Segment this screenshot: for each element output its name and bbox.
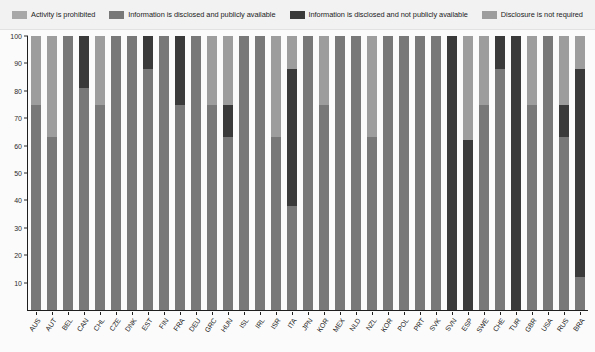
bar-slot[interactable] <box>332 36 348 310</box>
bar-slot[interactable] <box>556 36 572 310</box>
bar-segment-disclosed-public[interactable] <box>143 69 153 310</box>
stacked-bar[interactable] <box>223 36 233 310</box>
bar-segment-disclosed-private[interactable] <box>143 36 153 69</box>
bar-slot[interactable] <box>444 36 460 310</box>
bar-slot[interactable] <box>284 36 300 310</box>
bar-slot[interactable] <box>28 36 44 310</box>
bar-slot[interactable] <box>540 36 556 310</box>
bar-slot[interactable] <box>204 36 220 310</box>
bar-segment-disclosed-public[interactable] <box>207 105 217 311</box>
bar-segment-not-required[interactable] <box>319 36 329 105</box>
bar-segment-disclosed-public[interactable] <box>367 137 377 310</box>
stacked-bar[interactable] <box>335 36 345 310</box>
bar-segment-disclosed-public[interactable] <box>63 36 73 310</box>
stacked-bar[interactable] <box>175 36 185 310</box>
bar-segment-disclosed-private[interactable] <box>447 36 457 310</box>
bar-slot[interactable] <box>76 36 92 310</box>
bar-segment-disclosed-public[interactable] <box>335 36 345 310</box>
bar-slot[interactable] <box>300 36 316 310</box>
stacked-bar[interactable] <box>527 36 537 310</box>
stacked-bar[interactable] <box>495 36 505 310</box>
stacked-bar[interactable] <box>543 36 553 310</box>
bar-segment-disclosed-private[interactable] <box>79 36 89 88</box>
stacked-bar[interactable] <box>63 36 73 310</box>
bar-segment-disclosed-public[interactable] <box>111 36 121 310</box>
stacked-bar[interactable] <box>255 36 265 310</box>
stacked-bar[interactable] <box>79 36 89 310</box>
bar-segment-disclosed-public[interactable] <box>223 137 233 310</box>
stacked-bar[interactable] <box>351 36 361 310</box>
stacked-bar[interactable] <box>303 36 313 310</box>
bar-segment-disclosed-private[interactable] <box>511 36 521 310</box>
stacked-bar[interactable] <box>111 36 121 310</box>
bar-segment-disclosed-private[interactable] <box>463 140 473 310</box>
stacked-bar[interactable] <box>415 36 425 310</box>
bar-slot[interactable] <box>396 36 412 310</box>
bar-segment-disclosed-private[interactable] <box>175 36 185 105</box>
stacked-bar[interactable] <box>575 36 585 310</box>
bar-segment-not-required[interactable] <box>47 36 57 137</box>
bar-slot[interactable] <box>380 36 396 310</box>
stacked-bar[interactable] <box>271 36 281 310</box>
bar-slot[interactable] <box>524 36 540 310</box>
bar-segment-disclosed-public[interactable] <box>127 36 137 310</box>
bar-segment-disclosed-public[interactable] <box>175 105 185 311</box>
bar-segment-disclosed-public[interactable] <box>191 36 201 310</box>
bar-segment-not-required[interactable] <box>223 36 233 105</box>
bar-segment-disclosed-public[interactable] <box>95 105 105 311</box>
bar-segment-not-required[interactable] <box>95 36 105 105</box>
bar-slot[interactable] <box>572 36 588 310</box>
bar-segment-disclosed-private[interactable] <box>287 69 297 206</box>
stacked-bar[interactable] <box>559 36 569 310</box>
stacked-bar[interactable] <box>319 36 329 310</box>
stacked-bar[interactable] <box>207 36 217 310</box>
stacked-bar[interactable] <box>143 36 153 310</box>
bar-slot[interactable] <box>44 36 60 310</box>
bar-segment-not-required[interactable] <box>271 36 281 137</box>
bar-segment-disclosed-public[interactable] <box>495 69 505 310</box>
bar-segment-disclosed-private[interactable] <box>495 36 505 69</box>
stacked-bar[interactable] <box>31 36 41 310</box>
stacked-bar[interactable] <box>95 36 105 310</box>
bar-segment-disclosed-public[interactable] <box>159 36 169 310</box>
stacked-bar[interactable] <box>479 36 489 310</box>
bar-segment-not-required[interactable] <box>287 36 297 69</box>
stacked-bar[interactable] <box>239 36 249 310</box>
bar-slot[interactable] <box>252 36 268 310</box>
bar-segment-disclosed-public[interactable] <box>287 206 297 310</box>
bar-slot[interactable] <box>172 36 188 310</box>
bar-segment-disclosed-public[interactable] <box>559 137 569 310</box>
bar-segment-not-required[interactable] <box>31 36 41 105</box>
bar-segment-disclosed-public[interactable] <box>351 36 361 310</box>
bar-slot[interactable] <box>268 36 284 310</box>
bar-segment-disclosed-public[interactable] <box>31 105 41 311</box>
bar-segment-disclosed-private[interactable] <box>575 69 585 277</box>
stacked-bar[interactable] <box>367 36 377 310</box>
bar-segment-not-required[interactable] <box>559 36 569 105</box>
stacked-bar[interactable] <box>463 36 473 310</box>
stacked-bar[interactable] <box>287 36 297 310</box>
bar-segment-disclosed-public[interactable] <box>255 36 265 310</box>
bar-slot[interactable] <box>316 36 332 310</box>
bar-segment-disclosed-public[interactable] <box>527 105 537 311</box>
bar-segment-disclosed-public[interactable] <box>319 105 329 311</box>
bar-slot[interactable] <box>412 36 428 310</box>
stacked-bar[interactable] <box>191 36 201 310</box>
bar-slot[interactable] <box>236 36 252 310</box>
bar-slot[interactable] <box>92 36 108 310</box>
bar-slot[interactable] <box>108 36 124 310</box>
bar-segment-disclosed-private[interactable] <box>559 105 569 138</box>
bar-segment-not-required[interactable] <box>463 36 473 140</box>
bar-slot[interactable] <box>220 36 236 310</box>
bar-segment-disclosed-public[interactable] <box>399 36 409 310</box>
stacked-bar[interactable] <box>47 36 57 310</box>
bar-segment-not-required[interactable] <box>367 36 377 137</box>
bar-segment-disclosed-public[interactable] <box>383 36 393 310</box>
bar-slot[interactable] <box>428 36 444 310</box>
stacked-bar[interactable] <box>511 36 521 310</box>
stacked-bar[interactable] <box>383 36 393 310</box>
bar-slot[interactable] <box>460 36 476 310</box>
bar-segment-not-required[interactable] <box>575 36 585 69</box>
stacked-bar[interactable] <box>447 36 457 310</box>
bar-slot[interactable] <box>492 36 508 310</box>
